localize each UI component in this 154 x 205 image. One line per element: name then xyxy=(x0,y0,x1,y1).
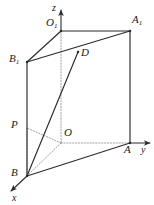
edge-B1-A1 xyxy=(27,31,130,62)
axis-label-z: z xyxy=(52,2,56,13)
segment-B-D xyxy=(27,52,78,176)
point-label-o1: O1 xyxy=(46,17,57,28)
vertex-dot-o1 xyxy=(60,30,63,33)
axis-label-x: x xyxy=(12,192,16,203)
axis-label-y: y xyxy=(141,144,145,155)
point-label-d: D xyxy=(81,47,89,58)
vertex-dot-a1 xyxy=(129,30,132,33)
vertex-dots-group xyxy=(26,30,132,178)
point-label-b1: B1 xyxy=(9,53,19,64)
vertex-dot-d xyxy=(77,51,80,54)
subscript: 1 xyxy=(54,22,58,30)
point-label-a: A xyxy=(124,144,131,155)
point-label-a1: A1 xyxy=(132,14,142,25)
figure-canvas xyxy=(0,0,154,205)
point-label-o: O xyxy=(64,127,72,138)
vertex-dot-b xyxy=(26,175,29,178)
point-label-b: B xyxy=(11,167,18,178)
subscript: 1 xyxy=(139,19,143,27)
vertex-dot-b1 xyxy=(26,61,29,64)
point-label-p: P xyxy=(11,119,18,130)
edge-B-A xyxy=(27,143,130,176)
geometry-figure: OO1AA1BB1PDxyz xyxy=(0,0,154,205)
subscript: 1 xyxy=(16,58,20,66)
x-axis xyxy=(11,176,27,191)
